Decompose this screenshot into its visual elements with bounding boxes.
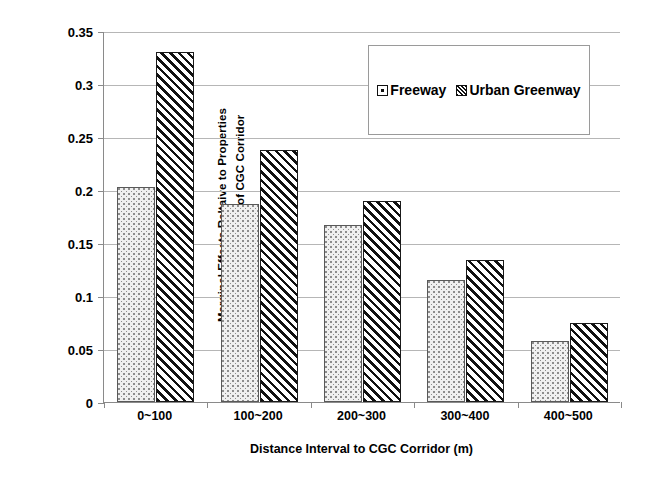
y-axis-tick-label: 0.15 <box>33 238 93 251</box>
legend: Freeway Urban Greenway <box>368 45 590 135</box>
legend-swatch-urban-greenway-icon <box>456 85 467 96</box>
legend-entries: Freeway Urban Greenway <box>369 83 589 97</box>
bar-freeway <box>324 225 362 402</box>
y-axis-tick-label: 0.35 <box>33 26 93 39</box>
bar-urban-greenway <box>570 323 608 403</box>
x-axis-tick <box>104 402 105 408</box>
x-axis-tick <box>414 402 415 408</box>
legend-label-urban-greenway: Urban Greenway <box>469 83 580 97</box>
bar-chart-figure: Marginal Effects Reltaive to Properties … <box>0 0 647 477</box>
y-axis-tick-label: 0.2 <box>33 185 93 198</box>
x-axis-tick-label: 400~500 <box>513 410 623 423</box>
bar-freeway <box>531 341 569 402</box>
legend-item-urban-greenway: Urban Greenway <box>456 83 580 97</box>
x-axis-tick-label: 100~200 <box>203 410 313 423</box>
y-axis-tick-label: 0.1 <box>33 291 93 304</box>
bar-urban-greenway <box>363 201 401 402</box>
bar-urban-greenway <box>156 52 194 402</box>
y-axis-tick-label: 0.05 <box>33 344 93 357</box>
legend-item-freeway: Freeway <box>377 83 446 97</box>
x-axis-tick <box>518 402 519 408</box>
x-axis-tick-label: 300~400 <box>410 410 520 423</box>
legend-label-freeway: Freeway <box>390 83 446 97</box>
x-axis-tick <box>311 402 312 408</box>
x-axis-title: Distance Interval to CGC Corridor (m) <box>103 443 620 456</box>
x-axis-tick-label: 0~100 <box>100 410 210 423</box>
y-axis-tick-label: 0 <box>33 397 93 410</box>
bar-freeway <box>427 280 465 402</box>
x-axis-tick <box>621 402 622 408</box>
bar-freeway <box>221 204 259 402</box>
bar-urban-greenway <box>260 150 298 402</box>
x-axis-tick <box>207 402 208 408</box>
legend-swatch-freeway-icon <box>377 85 388 96</box>
bar-urban-greenway <box>466 260 504 402</box>
x-axis-tick-label: 200~300 <box>307 410 417 423</box>
bar-freeway <box>117 187 155 402</box>
y-axis-tick-label: 0.25 <box>33 132 93 145</box>
y-axis-tick-label: 0.3 <box>33 79 93 92</box>
